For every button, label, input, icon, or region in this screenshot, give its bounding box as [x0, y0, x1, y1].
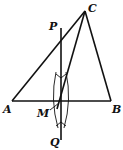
label-m: M	[36, 107, 50, 120]
label-p: P	[48, 20, 58, 33]
geometry-figure: C P A B M Q	[0, 0, 123, 150]
label-b: B	[111, 103, 121, 116]
label-a: A	[2, 103, 12, 116]
label-q: Q	[50, 136, 60, 149]
label-c: C	[88, 2, 97, 15]
segment-bc	[85, 11, 111, 101]
